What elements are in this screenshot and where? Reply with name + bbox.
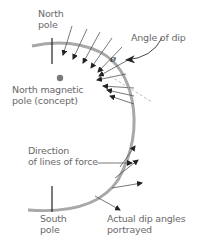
- south-pole-line1: South: [40, 213, 67, 224]
- south-pole-label: South pole: [40, 213, 67, 235]
- magnetic-dip-diagram: North pole Angle of dip ø North magnetic…: [0, 0, 200, 250]
- angle-of-dip-text: Angle of dip: [131, 32, 186, 43]
- actual-dip-angles-label: Actual dip angles portrayed: [107, 213, 185, 235]
- direction-line2: of lines of force: [28, 156, 98, 167]
- north-magnetic-pole-line1: North magnetic: [12, 84, 83, 95]
- actual-dip-line2: portrayed: [107, 224, 185, 235]
- direction-line1: Direction: [28, 145, 98, 156]
- north-magnetic-pole-line2: pole (concept): [12, 95, 83, 106]
- north-pole-label-line2: pole: [38, 19, 64, 30]
- actual-dip-line1: Actual dip angles: [107, 213, 185, 224]
- north-pole-label-line1: North: [38, 8, 64, 19]
- angle-of-dip-label: Angle of dip: [131, 32, 186, 43]
- earth-surface-arc: [28, 43, 134, 211]
- direction-lines-of-force-label: Direction of lines of force: [28, 145, 98, 167]
- theta-text: ø: [110, 53, 116, 64]
- theta-dip-symbol: ø: [110, 53, 116, 64]
- south-pole-line2: pole: [40, 224, 67, 235]
- north-pole-label: North pole: [38, 8, 64, 30]
- north-magnetic-pole-label: North magnetic pole (concept): [12, 84, 83, 106]
- north-magnetic-pole-dot: [57, 75, 63, 81]
